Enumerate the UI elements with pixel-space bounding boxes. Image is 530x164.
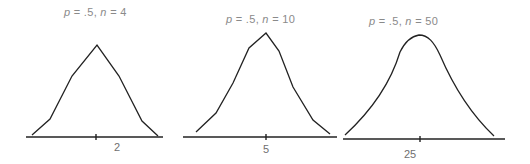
distribution-curve	[345, 35, 494, 136]
x-tick-label: 5	[263, 143, 269, 155]
n-value: = 4	[107, 6, 127, 18]
p-value: = .5,	[375, 15, 405, 27]
n-value: = 10	[269, 13, 295, 25]
n-value: = 50	[412, 15, 438, 27]
chart-title-n50: p = .5, n = 50	[369, 15, 438, 27]
chart-panel-n50	[343, 35, 505, 142]
x-tick-label: 25	[404, 148, 416, 160]
chart-title-n10: p = .5, n = 10	[226, 13, 295, 25]
p-value: = .5,	[232, 13, 262, 25]
chart-panel-n4	[26, 45, 163, 140]
chart-panel-n10	[183, 33, 337, 140]
x-tick-label: 2	[114, 141, 120, 153]
distribution-curve	[32, 45, 158, 136]
p-value: = .5,	[70, 6, 100, 18]
chart-title-n4: p = .5, n = 4	[64, 6, 127, 18]
distribution-curve	[196, 33, 330, 134]
